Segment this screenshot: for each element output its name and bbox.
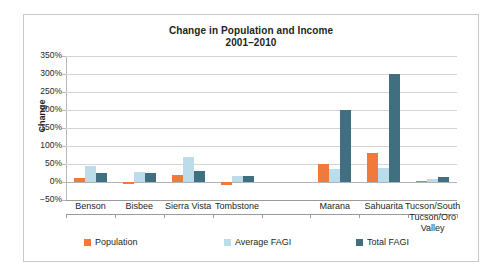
y-tick-mark bbox=[62, 146, 66, 147]
legend-item-population[interactable]: Population bbox=[84, 237, 138, 248]
bar-total-fagi bbox=[96, 173, 107, 182]
y-tick-mark bbox=[62, 110, 66, 111]
bar-group bbox=[172, 56, 205, 200]
x-tick-mark bbox=[408, 214, 409, 218]
bar-total-fagi bbox=[340, 110, 351, 182]
chart-subtitle: 2001–2010 bbox=[24, 37, 478, 49]
bar-population bbox=[123, 182, 134, 184]
bar-average-fagi bbox=[134, 172, 145, 182]
x-category-label-line: Benson bbox=[75, 201, 106, 211]
legend-item-average-fagi[interactable]: Average FAGI bbox=[224, 237, 291, 248]
chart-title-main: Change in Population and Income bbox=[169, 25, 333, 36]
bar-average-fagi bbox=[85, 166, 96, 182]
chart-title: Change in Population and Income 2001–201… bbox=[24, 25, 478, 49]
legend-swatch-icon bbox=[224, 239, 231, 246]
x-tick-mark bbox=[310, 214, 311, 218]
bar-average-fagi bbox=[183, 157, 194, 182]
x-tick-mark bbox=[164, 214, 165, 218]
bar-total-fagi bbox=[389, 74, 400, 182]
bar-average-fagi bbox=[232, 176, 243, 182]
legend-label: Population bbox=[95, 237, 138, 248]
bar-group bbox=[221, 56, 254, 200]
bar-total-fagi bbox=[194, 171, 205, 182]
legend-label: Average FAGI bbox=[235, 237, 291, 248]
x-category-label-line: Tombstone bbox=[215, 201, 259, 211]
bar-population bbox=[367, 153, 378, 182]
bar-population bbox=[221, 182, 232, 185]
bar-average-fagi bbox=[329, 169, 340, 182]
legend-label: Total FAGI bbox=[367, 237, 409, 248]
legend-item-total-fagi[interactable]: Total FAGI bbox=[356, 237, 409, 248]
x-category-label-line: Marana bbox=[320, 201, 351, 211]
x-tick-mark bbox=[457, 214, 458, 218]
bar-group bbox=[367, 56, 400, 200]
bar-population bbox=[74, 178, 85, 182]
y-tick-label: 350% bbox=[28, 51, 62, 60]
bar-group bbox=[269, 56, 302, 200]
y-tick-mark bbox=[62, 164, 66, 165]
y-tick-label: 0% bbox=[28, 177, 62, 186]
x-category-label-line: Tucson/Oro bbox=[396, 212, 469, 223]
y-tick-mark bbox=[62, 56, 66, 57]
legend-swatch-icon bbox=[84, 239, 91, 246]
x-category-label: Tombstone bbox=[200, 201, 273, 212]
x-tick-mark bbox=[213, 214, 214, 218]
bar-average-fagi bbox=[427, 179, 438, 182]
y-tick-mark bbox=[62, 182, 66, 183]
bar-total-fagi bbox=[145, 173, 156, 182]
x-tick-mark bbox=[115, 214, 116, 218]
bar-population bbox=[318, 164, 329, 182]
bar-total-fagi bbox=[438, 177, 449, 182]
x-tick-mark bbox=[66, 214, 67, 218]
bar-population bbox=[416, 181, 427, 182]
y-tick-mark bbox=[62, 200, 66, 201]
bar-average-fagi bbox=[378, 168, 389, 182]
plot-area bbox=[66, 56, 457, 200]
y-tick-label: 50% bbox=[28, 159, 62, 168]
bar-group bbox=[416, 56, 449, 200]
y-axis-title: Change bbox=[37, 76, 47, 156]
chart-container: Change in Population and Income 2001–201… bbox=[23, 14, 479, 262]
x-category-label-line: Bisbee bbox=[126, 201, 154, 211]
bar-population bbox=[172, 175, 183, 182]
y-tick-mark bbox=[62, 128, 66, 129]
bar-group bbox=[318, 56, 351, 200]
x-category-label-line: Tucson/South bbox=[405, 201, 460, 211]
bar-group bbox=[123, 56, 156, 200]
y-tick-mark bbox=[62, 92, 66, 93]
bar-group bbox=[74, 56, 107, 200]
y-tick-mark bbox=[62, 74, 66, 75]
x-tick-mark bbox=[359, 214, 360, 218]
x-category-label-line: Valley bbox=[396, 223, 469, 234]
x-category-label: Tucson/SouthTucson/OroValley bbox=[396, 201, 469, 234]
legend-swatch-icon bbox=[356, 239, 363, 246]
bar-total-fagi bbox=[243, 176, 254, 182]
x-tick-mark bbox=[262, 214, 263, 218]
chart-legend: PopulationAverage FAGITotal FAGI bbox=[84, 237, 424, 251]
